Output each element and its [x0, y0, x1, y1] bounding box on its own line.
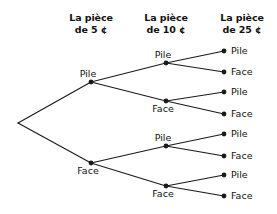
tree-node-dot	[222, 154, 227, 159]
n-pf-label: Face	[152, 104, 173, 114]
n-p-label: Pile	[80, 69, 97, 79]
column-header-line2: de 25 ¢	[220, 24, 264, 36]
header-10c: La piècede 10 ¢	[144, 12, 188, 35]
leaf-pfp-label: Pile	[231, 87, 248, 97]
tree-branch	[166, 63, 224, 72]
n-fp-label: Pile	[155, 133, 172, 143]
n-f-label: Face	[77, 166, 98, 176]
tree-branch	[91, 146, 166, 163]
leaf-ffp-label: Pile	[231, 170, 248, 180]
tree-node-dot	[222, 49, 227, 54]
tree-branch	[18, 82, 91, 123]
tree-node-dot	[222, 112, 227, 117]
tree-branch	[166, 146, 224, 156]
n-pp-label: Pile	[155, 50, 172, 60]
tree-node-dot	[164, 61, 169, 66]
tree-branch	[18, 123, 91, 163]
leaf-fpp-label: Pile	[231, 129, 248, 139]
tree-node-dot	[222, 173, 227, 178]
tree-edges-group	[18, 51, 224, 196]
tree-node-dot	[164, 144, 169, 149]
tree-nodes-group	[89, 49, 227, 199]
tree-branch	[166, 134, 224, 146]
header-5c: La piècede 5 ¢	[69, 12, 113, 35]
column-header-line1: La pièce	[69, 12, 113, 24]
column-header-line1: La pièce	[144, 12, 188, 24]
tree-node-dot	[222, 194, 227, 199]
column-header-line2: de 10 ¢	[144, 24, 188, 36]
tree-node-dot	[222, 70, 227, 75]
tree-branch	[166, 186, 224, 196]
tree-branch	[166, 101, 224, 114]
tree-node-dot	[222, 132, 227, 137]
tree-node-dot	[89, 80, 94, 85]
tree-branch	[166, 175, 224, 186]
tree-branch	[91, 63, 166, 82]
header-25c: La piècede 25 ¢	[220, 12, 264, 35]
column-header-line1: La pièce	[220, 12, 264, 24]
probability-tree-diagram: La piècede 5 ¢La piècede 10 ¢La piècede …	[0, 0, 277, 214]
leaf-ppp-label: Pile	[231, 46, 248, 56]
leaf-pff-label: Face	[231, 109, 252, 119]
tree-branch	[166, 92, 224, 101]
tree-branch	[91, 82, 166, 101]
leaf-fff-label: Face	[231, 191, 252, 201]
tree-node-dot	[222, 90, 227, 95]
column-header-line2: de 5 ¢	[69, 24, 113, 36]
leaf-fpf-label: Face	[231, 151, 252, 161]
n-ff-label: Face	[152, 189, 173, 199]
tree-branch	[166, 51, 224, 63]
tree-branch	[91, 163, 166, 186]
leaf-ppf-label: Face	[231, 67, 252, 77]
